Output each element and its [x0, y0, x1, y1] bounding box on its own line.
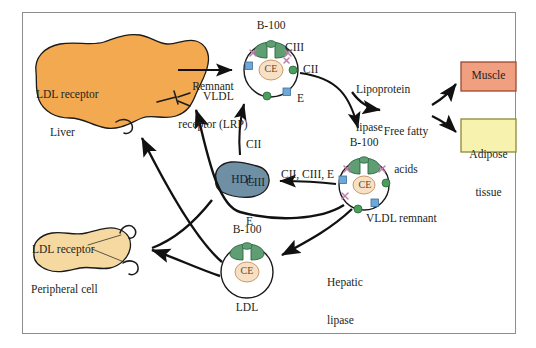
muscle-label: Muscle — [461, 69, 516, 82]
peripheral-ldl-receptor-label: LDL receptor — [32, 243, 94, 256]
arrow-ffa-to-adipose — [432, 116, 456, 132]
remnant-core-label: CE — [353, 179, 377, 190]
arrow-vldl-to-remnant — [300, 73, 358, 128]
vldl-ciii-label: CIII — [285, 41, 304, 54]
remnant-apob-label: B-100 — [334, 136, 394, 149]
free-fatty-acids-label: Free fatty acids — [378, 99, 434, 202]
vldl-e-label: E — [297, 92, 304, 105]
vldl-cii-label: CII — [303, 63, 318, 76]
ldl-core-label: CE — [235, 265, 259, 276]
remnant-to-hdl-transfer-label: CII, CIII, E — [281, 168, 334, 181]
ldl-apob-label: B-100 — [217, 223, 277, 236]
adipose-label: Adipose tissue — [461, 122, 516, 225]
diagram-canvas: Remnant receptor (LRP) LDL receptor Live… — [0, 0, 536, 348]
hepatic-lipase-label: Hepatic lipase — [327, 250, 363, 348]
arrow-remnant-to-hdl — [280, 181, 336, 184]
peripheral-cell-label: Peripheral cell — [31, 283, 98, 296]
liver-ldl-receptor-label: LDL receptor — [36, 88, 98, 101]
vldl-apob-label: B-100 — [241, 19, 301, 32]
hdl-label: HDL — [221, 173, 265, 186]
ldl-name-label: LDL — [227, 301, 267, 314]
vldl-remnant-name-label: VLDL remnant — [366, 212, 437, 225]
vldl-name-label: VLDL — [203, 90, 234, 103]
vldl-core-label: CE — [259, 63, 283, 74]
arrow-ffa-to-muscle — [432, 84, 456, 105]
arrow-ldl-to-peripheral — [152, 250, 220, 276]
liver-label: Liver — [50, 126, 75, 139]
